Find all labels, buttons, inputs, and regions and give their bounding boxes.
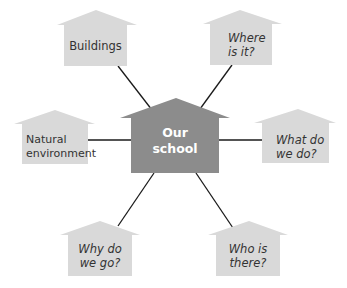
center-line1: Our	[131, 125, 219, 141]
node-what-label: What do we do?	[276, 133, 331, 161]
node-who-label: Who is there?	[216, 242, 280, 270]
node-buildings-label: Buildings	[64, 39, 127, 53]
connector-buildings	[118, 66, 152, 110]
node-buildings-line1: Buildings	[69, 39, 122, 53]
node-where-line2: is it?	[228, 45, 272, 59]
node-why-line1: Why do	[68, 242, 132, 256]
connector-why	[118, 173, 154, 226]
node-what-line2: we do?	[276, 147, 331, 161]
center-label: Our school	[131, 125, 219, 157]
node-where-label: Where is it?	[228, 31, 272, 59]
house-buildings-shape	[57, 10, 137, 66]
node-who-line2: there?	[216, 256, 280, 270]
node-where-line1: Where	[228, 31, 272, 45]
node-what-line1: What do	[276, 133, 331, 147]
node-who-line1: Who is	[216, 242, 280, 256]
connector-where	[200, 65, 232, 109]
node-natural-line1: Natural	[26, 133, 92, 147]
connector-who	[196, 173, 233, 228]
node-natural-label: Natural environment	[26, 133, 92, 161]
node-why-label: Why do we go?	[68, 242, 132, 270]
center-line2: school	[131, 141, 219, 157]
node-why-line2: we go?	[68, 256, 132, 270]
node-natural-line2: environment	[26, 147, 92, 161]
